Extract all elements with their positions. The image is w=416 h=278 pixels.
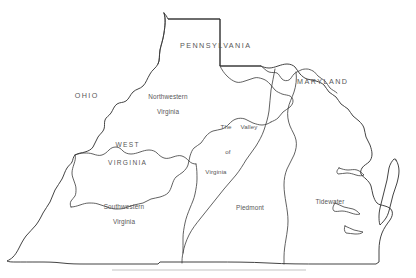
eastern-shore-peninsula — [379, 159, 399, 225]
west-virginia-internal-ridge — [75, 147, 196, 164]
chesapeake-western-shore — [337, 168, 364, 176]
chesapeake-inlet-lower — [333, 203, 360, 214]
chesapeake-inlet-james — [344, 226, 363, 234]
pennsylvania-border-path — [168, 19, 261, 66]
potomac-maryland-boundary — [261, 66, 337, 93]
northern-panhandle-edge — [158, 13, 165, 64]
west-virginia-virginia-boundary — [71, 118, 271, 209]
state-outline-path — [7, 13, 392, 264]
eastern-panhandle-boundary — [220, 66, 293, 122]
region-map-figure: OHIO PENNSYLVANIA MARYLAND Northwestern … — [0, 0, 416, 278]
fall-line-piedmont-tidewater-boundary — [284, 72, 296, 264]
map-outline-svg — [0, 0, 416, 278]
valley-southwestern-boundary — [183, 164, 197, 253]
